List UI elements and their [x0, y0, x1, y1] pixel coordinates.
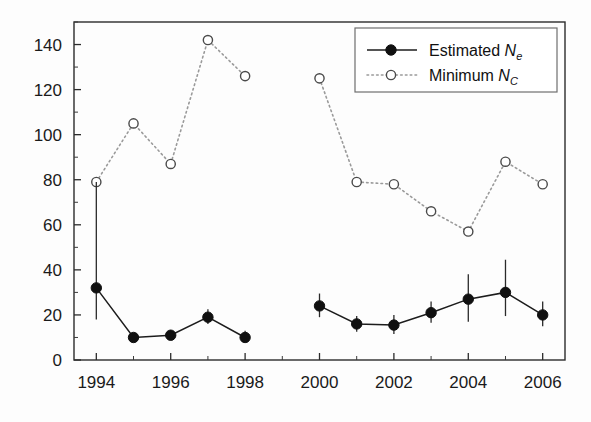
y-axis-tick-label: 20	[43, 306, 62, 325]
estimated-ne-point	[91, 283, 101, 293]
minimum-nc-point	[538, 180, 547, 189]
minimum-nc-point	[129, 119, 138, 128]
x-axis-tick-label: 2006	[524, 373, 562, 392]
estimated-ne-point	[203, 312, 213, 322]
legend-sample-marker	[386, 45, 396, 55]
y-axis-tick-label: 40	[43, 261, 62, 280]
minimum-nc-point	[389, 180, 398, 189]
x-axis-tick-labels: 1994199619982000200220042006	[77, 373, 561, 392]
minimum-nc-point	[464, 227, 473, 236]
minimum-nc-point	[241, 71, 250, 80]
minimum-nc-point	[166, 159, 175, 168]
x-axis-tick-label: 1994	[77, 373, 115, 392]
chart-figure: 020406080100120140 199419961998200020022…	[0, 0, 591, 422]
x-axis-tick-label: 1996	[152, 373, 190, 392]
estimated-ne-point	[389, 320, 399, 330]
x-axis-tick-label: 1998	[226, 373, 264, 392]
minimum-nc-point	[426, 207, 435, 216]
minimum-nc-point	[501, 157, 510, 166]
estimated-ne-point	[351, 319, 361, 329]
minimum-nc-point	[352, 177, 361, 186]
y-axis-tick-label: 120	[34, 81, 62, 100]
y-axis-tick-label: 80	[43, 171, 62, 190]
x-axis-tick-label: 2002	[375, 373, 413, 392]
series-estimated-ne	[91, 182, 548, 343]
estimated-ne-point	[426, 307, 436, 317]
estimated-ne-point	[500, 287, 510, 297]
estimated-ne-point	[128, 332, 138, 342]
line-chart: 020406080100120140 199419961998200020022…	[0, 0, 591, 422]
y-axis-tick-label: 140	[34, 36, 62, 55]
estimated-ne-point	[314, 301, 324, 311]
y-axis-tick-label: 0	[53, 351, 62, 370]
x-axis-tick-label: 2000	[301, 373, 339, 392]
chart-legend: Estimated NeMinimum NC	[355, 28, 557, 92]
estimated-ne-point	[166, 330, 176, 340]
legend-sample-marker	[386, 70, 395, 79]
estimated-ne-point	[537, 310, 547, 320]
y-axis-tick-label: 100	[34, 126, 62, 145]
minimum-nc-point	[315, 74, 324, 83]
estimated-ne-point	[463, 294, 473, 304]
y-axis-tick-label: 60	[43, 216, 62, 235]
estimated-ne-point	[240, 332, 250, 342]
minimum-nc-point	[203, 35, 212, 44]
y-axis-tick-labels: 020406080100120140	[34, 36, 62, 370]
x-axis-tick-label: 2004	[449, 373, 487, 392]
